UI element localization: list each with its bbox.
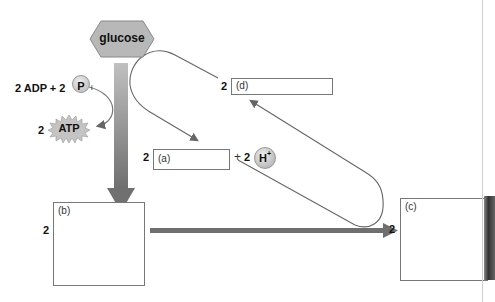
h-coefficient: 2 <box>244 151 250 163</box>
adp-pi-inputs: 2 ADP + 2 P i <box>15 78 65 96</box>
box-d[interactable]: (d) <box>231 78 333 95</box>
box-c[interactable]: (c) <box>400 198 488 281</box>
d-to-a-loop-arrow <box>130 51 218 140</box>
box-b-label: (b) <box>58 205 70 216</box>
phosphate-circle: P <box>72 75 90 93</box>
b-coefficient: 2 <box>43 224 49 236</box>
glucose-node: glucose <box>89 20 155 58</box>
adp-text: 2 ADP + 2 <box>15 82 65 94</box>
hydrogen-superscript: + <box>267 150 271 157</box>
box-b[interactable]: (b) <box>53 202 145 286</box>
glycolysis-diagram: glucose 2 ADP + 2 P i 2 ATP 2 (d) 2 (a) … <box>0 0 495 302</box>
d-coefficient: 2 <box>221 80 227 92</box>
hydrogen-label: H <box>259 152 267 164</box>
atp-label: ATP <box>47 122 91 134</box>
a-coefficient: 2 <box>143 151 149 163</box>
adp-to-atp-arrow <box>89 87 113 126</box>
box-c-label: (c) <box>405 201 417 212</box>
phosphate-subscript: i <box>91 84 93 91</box>
c-coefficient: 2 <box>389 223 395 235</box>
page-edge-line <box>482 0 483 302</box>
box-a-label: (a) <box>158 153 170 164</box>
hydrogen-ion-circle: H+ <box>254 147 276 169</box>
phosphate-symbol: P <box>77 80 84 92</box>
glucose-label: glucose <box>89 31 155 45</box>
atp-node: ATP <box>47 114 91 144</box>
main-down-arrow <box>107 63 135 212</box>
plus-sign: + <box>234 150 241 164</box>
page-edge-shadow <box>484 196 495 280</box>
b-to-c-arrow <box>150 223 398 238</box>
atp-coefficient: 2 <box>38 124 44 136</box>
box-a[interactable]: (a) <box>153 149 230 170</box>
box-d-label: (d) <box>236 80 248 91</box>
